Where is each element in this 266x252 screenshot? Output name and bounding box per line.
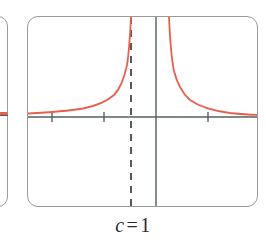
- caption-value: 1: [140, 214, 151, 236]
- caption-equals: =: [127, 214, 139, 236]
- adjacent-figure-curve: [0, 112, 8, 115]
- figure-caption: c=1: [0, 214, 266, 237]
- figure-container: c=1: [0, 0, 266, 252]
- curve-right-branch: [169, 17, 258, 115]
- plot-frame: [27, 16, 258, 207]
- adjacent-figure-axis: [0, 115, 8, 116]
- curve-left-branch: [28, 17, 131, 114]
- plot-canvas: [28, 17, 258, 207]
- caption-variable: c: [115, 214, 124, 236]
